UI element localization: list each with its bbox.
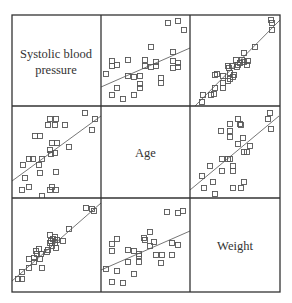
diagonal-label-weight: Weight: [217, 239, 253, 253]
diagonal-label-age: Age: [135, 146, 156, 160]
diagonal-label-sbp-line2: pressure: [35, 63, 77, 77]
diagonal-label-sbp-line1: Systolic blood: [20, 47, 93, 61]
scatterplot-matrix: Systolic blood pressure Age Weight: [0, 0, 292, 303]
